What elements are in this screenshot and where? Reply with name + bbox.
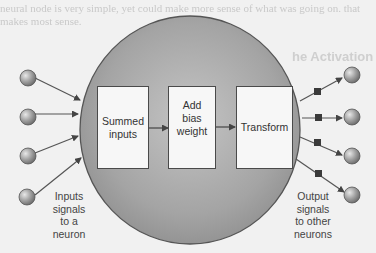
input-node-icon [20,70,36,86]
outputs-caption-line-4: neurons [283,228,343,241]
outputs-caption-line-3: to other [283,215,343,228]
inputs-caption-line-2: signals [39,203,99,216]
input-node-icon [20,109,36,125]
weight-square-icon [315,170,322,177]
output-node-icon [344,187,360,203]
bias-label-line-3: weight [177,125,207,138]
transform-label: Transform [241,121,288,134]
add-bias-weight-box: Add bias weight [168,86,216,169]
transform-box: Transform [236,86,293,169]
inputs-caption: Inputs signals to a neuron [39,190,99,240]
output-node-icon [344,148,360,164]
bias-label-line-1: Add [177,99,207,112]
outputs-caption-line-1: Output [283,190,343,203]
input-node-icon [19,189,35,205]
summed-inputs-box: Summed inputs [97,86,149,169]
inputs-caption-line-4: neuron [39,228,99,241]
weight-square-icon [314,139,321,146]
outputs-caption-line-2: signals [283,203,343,216]
weight-square-icon [314,88,321,95]
outputs-caption: Output signals to other neurons [283,190,343,240]
input-signals [19,70,81,205]
weight-square-icon [315,114,322,121]
bias-label-line-2: bias [177,112,207,125]
input-node-icon [20,148,36,164]
output-node-icon [344,67,360,83]
output-signals [296,67,360,203]
summed-inputs-label-line-1: Summed [102,115,144,128]
output-node-icon [344,109,360,125]
inputs-caption-line-3: to a [39,215,99,228]
inputs-caption-line-1: Inputs [39,190,99,203]
summed-inputs-label-line-2: inputs [102,128,144,141]
